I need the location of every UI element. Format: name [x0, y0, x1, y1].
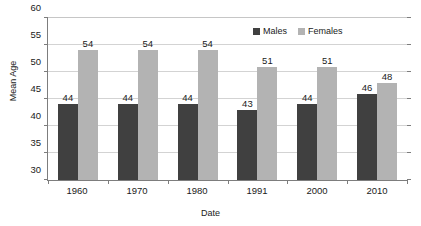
- bar-groups: 445444544454435144514648: [48, 18, 407, 180]
- x-axis-labels: 196019701980199120002010: [47, 185, 407, 196]
- bar-pair: 4451: [287, 18, 347, 180]
- bar-value-label: 51: [262, 56, 273, 66]
- x-tick-label: 1970: [107, 185, 167, 196]
- x-tick: [168, 180, 169, 184]
- y-tick-label: 40: [30, 111, 41, 121]
- x-tick: [407, 180, 408, 184]
- y-tick-label: 30: [30, 165, 41, 175]
- bar-value-label: 51: [322, 56, 333, 66]
- bar-value-label: 46: [362, 83, 373, 93]
- legend-label: Females: [308, 26, 343, 36]
- bar-group: 4454: [108, 18, 168, 180]
- x-tick: [108, 180, 109, 184]
- x-tick: [287, 180, 288, 184]
- bar-pair: 4351: [227, 18, 287, 180]
- legend-label: Males: [263, 26, 287, 36]
- bar-pair: 4454: [48, 18, 108, 180]
- x-tick: [347, 180, 348, 184]
- y-tick-label: 35: [30, 138, 41, 148]
- legend-swatch-icon: [298, 28, 305, 35]
- legend-item-females[interactable]: Females: [298, 26, 343, 36]
- bar-pair: 4648: [347, 18, 407, 180]
- y-tick-right: [407, 98, 411, 99]
- y-tick-right: [407, 17, 411, 18]
- y-tick-right: [407, 125, 411, 126]
- legend-swatch-icon: [253, 28, 260, 35]
- bar-group: 4351: [227, 18, 287, 180]
- bar-value-label: 44: [122, 93, 133, 103]
- y-tick-right: [407, 152, 411, 153]
- y-tick-label: 50: [30, 57, 41, 67]
- bar-group: 4648: [347, 18, 407, 180]
- legend-item-males[interactable]: Males: [253, 26, 287, 36]
- plot-area: 30354045505560 445444544454435144514648: [47, 18, 407, 181]
- bar-group: 4451: [287, 18, 347, 180]
- y-axis-title: Mean Age: [8, 41, 18, 121]
- bar-value-label: 43: [242, 99, 253, 109]
- bar-chart: Mean Age 30354045505560 4454445444544351…: [0, 0, 421, 226]
- bar-males[interactable]: 44: [58, 104, 78, 180]
- bar-value-label: 54: [142, 39, 153, 49]
- bar-males[interactable]: 46: [357, 94, 377, 180]
- y-tick-right: [407, 44, 411, 45]
- y-tick-label: 55: [30, 30, 41, 40]
- bar-pair: 4454: [168, 18, 228, 180]
- bar-females[interactable]: 54: [138, 50, 158, 180]
- x-tick: [228, 180, 229, 184]
- x-axis-title: Date: [0, 208, 421, 218]
- x-tick-label: 1980: [167, 185, 227, 196]
- bar-value-label: 44: [182, 93, 193, 103]
- x-tick-label: 1960: [47, 185, 107, 196]
- bar-value-label: 54: [202, 39, 213, 49]
- bar-females[interactable]: 54: [198, 50, 218, 180]
- bar-females[interactable]: 48: [377, 83, 397, 180]
- bar-females[interactable]: 51: [257, 67, 277, 180]
- bar-pair: 4454: [108, 18, 168, 180]
- x-tick: [48, 180, 49, 184]
- bar-group: 4454: [48, 18, 108, 180]
- chart-legend: MalesFemales: [253, 26, 343, 36]
- y-tick-label: 45: [30, 84, 41, 94]
- bar-males[interactable]: 44: [178, 104, 198, 180]
- x-tick-label: 2000: [287, 185, 347, 196]
- bar-females[interactable]: 54: [78, 50, 98, 180]
- bar-group: 4454: [168, 18, 228, 180]
- bar-value-label: 44: [302, 93, 313, 103]
- bar-females[interactable]: 51: [317, 67, 337, 180]
- x-tick-label: 1991: [227, 185, 287, 196]
- bar-value-label: 44: [63, 93, 74, 103]
- bar-value-label: 48: [382, 72, 393, 82]
- bar-males[interactable]: 44: [297, 104, 317, 180]
- bar-value-label: 54: [83, 39, 94, 49]
- y-tick-label: 60: [30, 3, 41, 13]
- y-tick-right: [407, 71, 411, 72]
- bar-males[interactable]: 44: [118, 104, 138, 180]
- bar-males[interactable]: 43: [237, 110, 257, 180]
- x-tick-label: 2010: [347, 185, 407, 196]
